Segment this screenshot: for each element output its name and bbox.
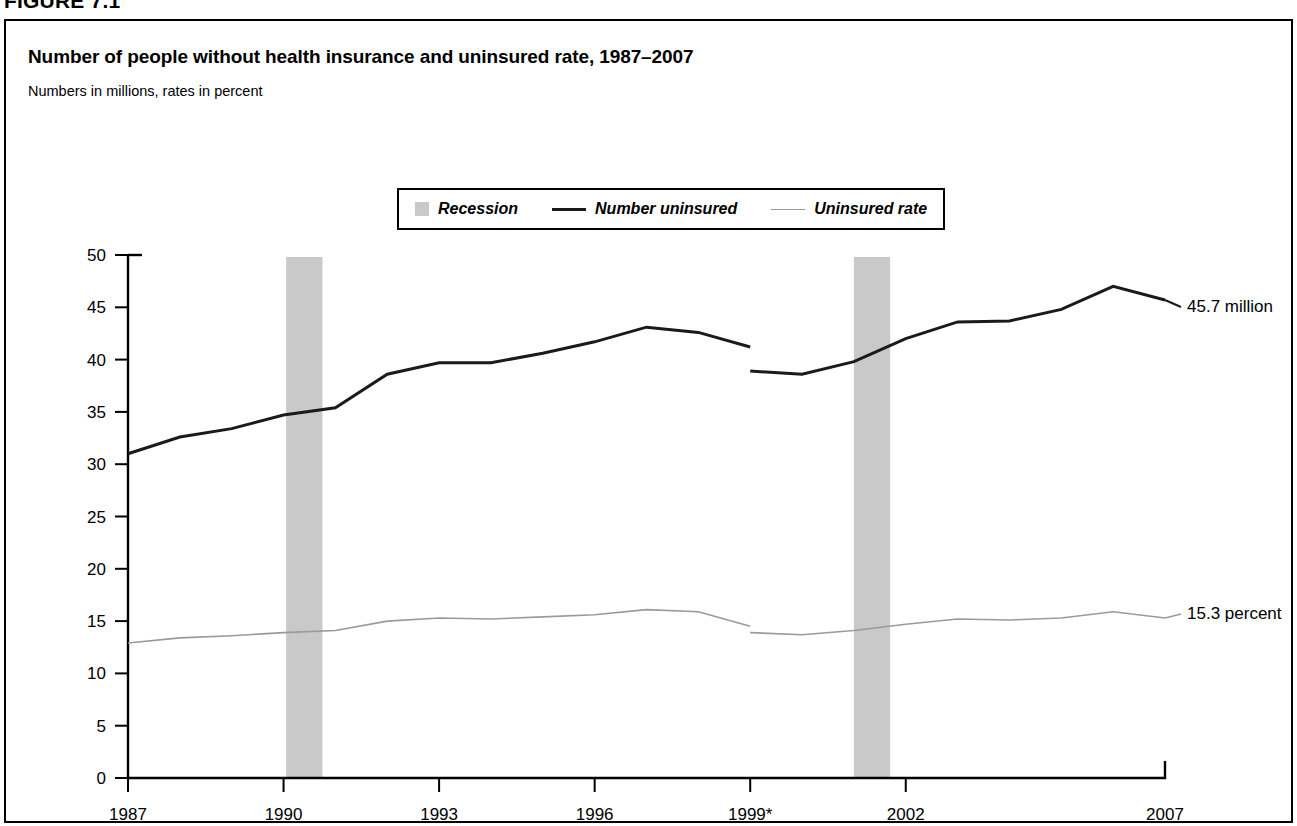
y-tick-label: 35 xyxy=(87,403,106,422)
recession-swatch-icon xyxy=(415,202,429,216)
y-tick-label: 0 xyxy=(97,769,106,788)
legend-item-uninsured-rate: Uninsured rate xyxy=(771,200,927,218)
legend-label-number-uninsured: Number uninsured xyxy=(595,200,737,218)
y-tick-label: 30 xyxy=(87,455,106,474)
annotation-leader-line xyxy=(1165,614,1181,618)
chart-series xyxy=(128,286,1165,643)
y-tick-label: 25 xyxy=(87,508,106,527)
y-tick-label: 20 xyxy=(87,560,106,579)
x-tick-label: 1996 xyxy=(576,805,614,824)
x-tick-label: 1993 xyxy=(420,805,458,824)
page-title: Number of people without health insuranc… xyxy=(28,46,693,68)
figure-subtitle: Numbers in millions, rates in percent xyxy=(28,83,263,99)
y-tick-label: 5 xyxy=(97,717,106,736)
legend-item-number-uninsured: Number uninsured xyxy=(552,200,737,218)
chart-plot-area: 05101520253035404550 1987199019931996199… xyxy=(6,21,1295,825)
chart-legend: Recession Number uninsured Uninsured rat… xyxy=(397,188,945,230)
y-tick-label: 45 xyxy=(87,298,106,317)
x-tick-label: 2007 xyxy=(1146,805,1184,824)
annotation-label-uninsured-rate-end: 15.3 percent xyxy=(1187,604,1282,623)
series-line-uninsured-rate-segment-1 xyxy=(128,610,750,643)
series-line-number-uninsured-segment-1 xyxy=(128,327,750,454)
annotation-label-number-uninsured-end: 45.7 million xyxy=(1187,297,1273,316)
figure-panel: Number of people without health insuranc… xyxy=(4,19,1293,823)
y-tick-label: 15 xyxy=(87,612,106,631)
chart-axes xyxy=(128,255,1165,778)
line-chart: 05101520253035404550 1987199019931996199… xyxy=(6,21,1295,825)
chart-annotations: 45.7 million15.3 percent xyxy=(1165,297,1282,623)
x-tick-label: 2002 xyxy=(887,805,925,824)
recession-band-1 xyxy=(286,257,322,778)
y-tick-label: 40 xyxy=(87,351,106,370)
x-tick-label: 1990 xyxy=(265,805,303,824)
series-line-number-uninsured-segment-2 xyxy=(750,286,1165,374)
figure-number: FIGURE 7.1 xyxy=(4,0,120,13)
line-swatch-icon xyxy=(552,208,586,211)
annotation-leader-line xyxy=(1165,300,1181,307)
legend-item-recession: Recession xyxy=(415,200,518,218)
thin-line-swatch-icon xyxy=(771,209,805,210)
axis-lines xyxy=(128,255,1165,778)
y-axis-ticks: 05101520253035404550 xyxy=(87,246,128,788)
series-line-uninsured-rate-segment-2 xyxy=(750,612,1165,635)
x-axis-ticks: 19871990199319961999*20022007 xyxy=(109,778,1184,824)
x-tick-label: 1987 xyxy=(109,805,147,824)
recession-band-2 xyxy=(854,257,890,778)
recession-bands xyxy=(286,257,890,778)
y-tick-label: 10 xyxy=(87,664,106,683)
x-tick-label: 1999* xyxy=(728,805,773,824)
y-tick-label: 50 xyxy=(87,246,106,265)
legend-label-uninsured-rate: Uninsured rate xyxy=(814,200,927,218)
legend-label-recession: Recession xyxy=(438,200,518,218)
